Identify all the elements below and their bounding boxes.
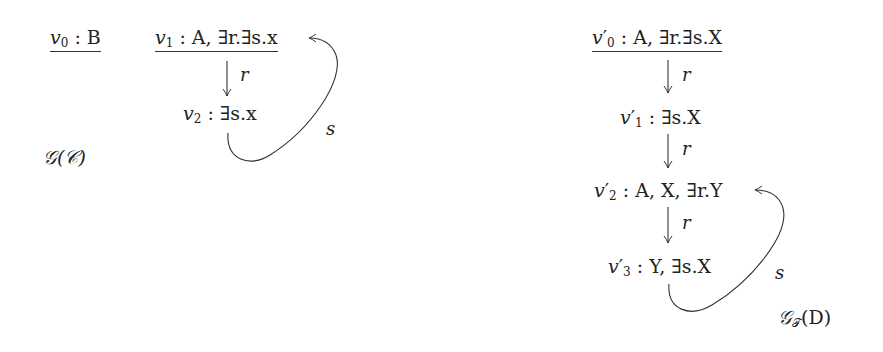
node-sub: 2 — [609, 189, 617, 203]
edge-v3p-v2p-loop — [669, 190, 784, 311]
node-var: v — [592, 26, 603, 48]
node-var: v — [183, 102, 194, 124]
edge-label-r: r — [682, 214, 691, 232]
node-v0: v0 : B — [50, 28, 101, 49]
node-var: v — [620, 106, 631, 128]
edge-v2-v1-loop — [228, 38, 338, 161]
graph-name-main: 𝒢 — [778, 306, 792, 328]
node-concepts: : B — [68, 26, 100, 48]
node-var: v — [608, 255, 619, 277]
graph-name-sub: 𝒯 — [792, 316, 801, 330]
node-v1-prime: v′1 : ∃s.X — [620, 108, 701, 129]
edge-label-r: r — [682, 140, 691, 158]
node-concepts: : ∃s.X — [643, 106, 701, 128]
node-v3-prime: v′3 : Y, ∃s.X — [608, 257, 711, 278]
node-concepts: : A, X, ∃r.Y — [617, 179, 723, 201]
node-var: v — [50, 26, 61, 48]
node-v2-prime: v′2 : A, X, ∃r.Y — [594, 181, 722, 202]
node-concepts: : A, ∃r.∃s.X — [615, 26, 722, 48]
node-var: v — [155, 26, 166, 48]
node-concepts: : A, ∃r.∃s.x — [173, 26, 277, 48]
node-v2: v2 : ∃s.x — [183, 104, 257, 125]
node-v1: v1 : A, ∃r.∃s.x — [155, 28, 278, 49]
node-var: v — [594, 179, 605, 201]
node-concepts: : ∃s.x — [201, 102, 256, 124]
edge-label-r: r — [240, 66, 249, 84]
graph-name-right: 𝒢𝒯(D) — [778, 308, 831, 329]
graph-name-arg: (D) — [801, 306, 831, 328]
node-concepts: : Y, ∃s.X — [631, 255, 711, 277]
node-sub: 1 — [635, 116, 643, 130]
edge-label-r: r — [682, 66, 691, 84]
node-v0-prime: v′0 : A, ∃r.∃s.X — [592, 28, 722, 49]
edges-layer — [0, 0, 883, 352]
node-sub: 3 — [623, 265, 631, 279]
edge-label-s: s — [775, 264, 784, 282]
edge-label-s: s — [326, 120, 335, 138]
node-sub: 0 — [607, 36, 615, 50]
graph-name-left: 𝒢(𝒞) — [43, 148, 86, 167]
